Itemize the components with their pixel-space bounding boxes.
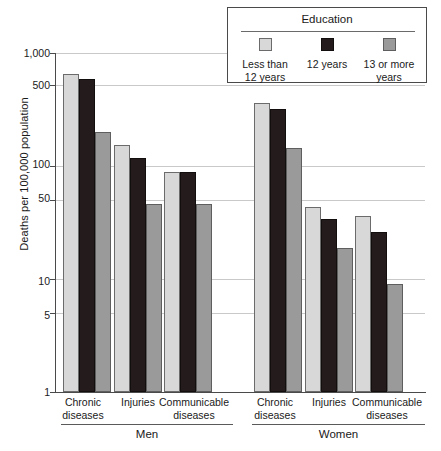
y-tick-10 bbox=[50, 279, 56, 280]
legend-swatch-icon bbox=[259, 38, 272, 51]
legend-item-label: Less than 12 years bbox=[234, 58, 296, 83]
cat-line2: diseases bbox=[62, 409, 103, 421]
bar-communicable-diseases-13-or-more-years bbox=[196, 204, 212, 392]
y-tick-5 bbox=[50, 313, 56, 314]
x-category-label-men-communicable: Communicable diseases bbox=[150, 396, 238, 421]
legend-item-13-or-more-years[interactable]: 13 or more years bbox=[358, 37, 420, 83]
y-tick-label-1: 1 bbox=[6, 387, 50, 398]
cat-line1: Chronic bbox=[257, 396, 293, 408]
legend-label-line2: years bbox=[376, 71, 402, 83]
legend-item-label: 12 years bbox=[296, 58, 358, 71]
group-rule-women bbox=[252, 424, 425, 425]
legend-item-less-than-12-years[interactable]: Less than 12 years bbox=[234, 37, 296, 83]
legend-swatch-icon bbox=[321, 38, 334, 51]
legend-label-line1: 12 years bbox=[307, 58, 347, 70]
y-tick-label-500: 500 bbox=[6, 80, 50, 91]
cat-line1: Communicable bbox=[352, 396, 422, 408]
legend: Education Less than 12 years 12 years 13… bbox=[227, 7, 427, 83]
y-tick-100 bbox=[50, 166, 56, 167]
bar-communicable-diseases-less-than-12-years bbox=[355, 216, 371, 392]
bar-communicable-diseases-12-years bbox=[180, 172, 196, 392]
legend-title: Education bbox=[228, 13, 426, 25]
bar-chronic-diseases-13-or-more-years bbox=[286, 148, 302, 392]
cat-line2: diseases bbox=[366, 409, 407, 421]
gridline-500 bbox=[56, 85, 425, 86]
group-rule-men bbox=[61, 424, 233, 425]
bar-chronic-diseases-less-than-12-years bbox=[254, 103, 270, 392]
y-tick-label-5: 5 bbox=[6, 310, 50, 321]
y-tick-label-1000: 1,000 bbox=[6, 48, 50, 59]
bar-injuries-12-years bbox=[130, 158, 146, 392]
legend-divider bbox=[241, 31, 415, 32]
y-tick-500 bbox=[50, 85, 56, 86]
bar-chronic-diseases-13-or-more-years bbox=[95, 132, 111, 392]
legend-item-label: 13 or more years bbox=[358, 58, 420, 83]
bar-injuries-12-years bbox=[321, 219, 337, 392]
bar-chronic-diseases-12-years bbox=[270, 109, 286, 392]
group-label-men: Men bbox=[61, 428, 233, 440]
bar-injuries-less-than-12-years bbox=[114, 145, 130, 393]
x-category-label-women-communicable: Communicable diseases bbox=[341, 396, 433, 421]
cat-line2: diseases bbox=[173, 409, 214, 421]
legend-swatch-icon bbox=[383, 38, 396, 51]
bar-communicable-diseases-less-than-12-years bbox=[164, 172, 180, 392]
gridline-50 bbox=[56, 200, 425, 201]
legend-label-line2: 12 years bbox=[245, 71, 285, 83]
y-tick-label-100: 100 bbox=[6, 159, 50, 170]
bar-injuries-13-or-more-years bbox=[337, 248, 353, 392]
bar-communicable-diseases-13-or-more-years bbox=[387, 284, 403, 392]
legend-item-12-years[interactable]: 12 years bbox=[296, 37, 358, 71]
cat-line1: Chronic bbox=[65, 396, 101, 408]
bar-injuries-less-than-12-years bbox=[305, 207, 321, 392]
y-tick-50 bbox=[50, 200, 56, 201]
bar-injuries-13-or-more-years bbox=[146, 204, 162, 392]
gridline-100 bbox=[56, 166, 425, 167]
legend-label-line1: 13 or more bbox=[364, 58, 415, 70]
legend-label-line1: Less than bbox=[242, 58, 288, 70]
y-tick-1000 bbox=[50, 53, 56, 54]
x-axis-baseline bbox=[55, 392, 426, 393]
bar-chronic-diseases-less-than-12-years bbox=[63, 74, 79, 392]
y-tick-label-10: 10 bbox=[6, 276, 50, 287]
bar-communicable-diseases-12-years bbox=[371, 232, 387, 392]
bar-chronic-diseases-12-years bbox=[79, 79, 95, 392]
y-tick-1 bbox=[50, 392, 56, 393]
group-label-women: Women bbox=[252, 428, 425, 440]
y-axis-title: Deaths per 100,000 population bbox=[18, 74, 30, 274]
chart-figure: Deaths per 100,000 population 1,000 500 … bbox=[0, 0, 441, 451]
cat-line1: Communicable bbox=[159, 396, 229, 408]
y-tick-label-50: 50 bbox=[6, 193, 50, 204]
cat-line2: diseases bbox=[254, 409, 295, 421]
plot-area bbox=[56, 53, 425, 392]
